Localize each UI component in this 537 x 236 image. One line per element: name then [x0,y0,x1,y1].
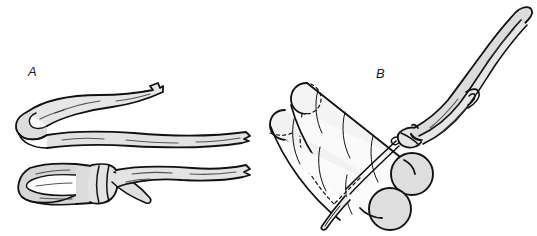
panel-b-label: B [376,66,385,81]
figure-root: A [0,0,537,236]
pole-end-cap-lower [369,188,411,230]
figure-illustration: A [0,0,537,236]
panel-a-label: A [27,64,37,79]
knotted-strap-left-band-bottom [76,203,92,204]
